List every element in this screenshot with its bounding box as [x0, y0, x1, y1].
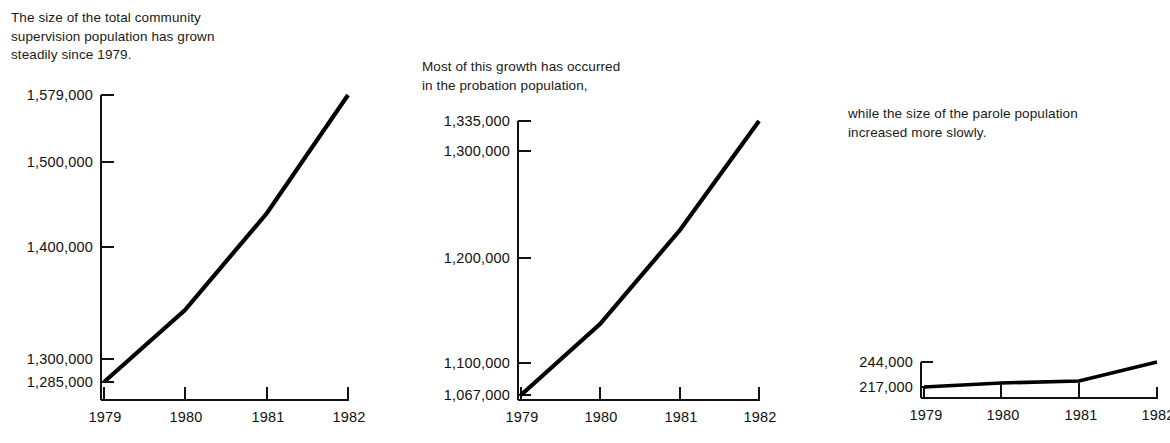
chart-probation-population: 1,335,000 1,300,000 1,200,000 1,100,000 … — [412, 108, 832, 428]
chart3-series-line — [924, 362, 1157, 387]
chart1-xtick-label-1981: 1981 — [251, 409, 284, 425]
chart1-ytick-label-1: 1,500,000 — [27, 154, 93, 170]
caption-probation-population: Most of this growth has occurred in the … — [422, 58, 692, 95]
chart1-ytick-label-3: 1,300,000 — [27, 351, 93, 367]
chart3-xtick-label-1979: 1979 — [909, 407, 942, 423]
chart2-xtick-label-1979: 1979 — [505, 409, 538, 425]
chart2-xtick-label-1981: 1981 — [664, 409, 697, 425]
chart1-xtick-label-1980: 1980 — [169, 409, 202, 425]
chart2-ytick-label-3: 1,100,000 — [444, 355, 510, 371]
caption-total-community-supervision: The size of the total community supervis… — [11, 9, 271, 65]
chart3-xtick-label-1982: 1982 — [1141, 407, 1170, 423]
chart2-ytick-label-0: 1,335,000 — [444, 113, 510, 129]
chart-total-community-supervision: 1,579,000 1,500,000 1,400,000 1,300,000 … — [0, 82, 400, 427]
chart1-ytick-label-0: 1,579,000 — [27, 87, 93, 103]
chart1-ytick-label-4: 1,285,000 — [27, 374, 93, 390]
chart2-ytick-label-2: 1,200,000 — [444, 250, 510, 266]
chart3-ytick-label-1: 217,000 — [859, 379, 913, 395]
chart3-xtick-label-1980: 1980 — [986, 407, 1019, 423]
chart2-xtick-label-1982: 1982 — [743, 409, 776, 425]
chart3-xtick-label-1981: 1981 — [1064, 407, 1097, 423]
chart2-xtick-label-1980: 1980 — [584, 409, 617, 425]
chart2-ytick-label-4: 1,067,000 — [444, 387, 510, 403]
chart-parole-population: 244,000 217,000 1979 1980 1981 1982 — [840, 352, 1170, 442]
caption-parole-population: while the size of the parole population … — [848, 105, 1148, 142]
chart1-ytick-label-2: 1,400,000 — [27, 239, 93, 255]
chart2-ytick-label-1: 1,300,000 — [444, 143, 510, 159]
chart1-series-line — [104, 95, 348, 382]
chart1-xtick-label-1982: 1982 — [332, 409, 365, 425]
chart1-xtick-label-1979: 1979 — [88, 409, 121, 425]
chart3-ytick-label-0: 244,000 — [859, 354, 913, 370]
chart2-series-line — [521, 121, 759, 395]
